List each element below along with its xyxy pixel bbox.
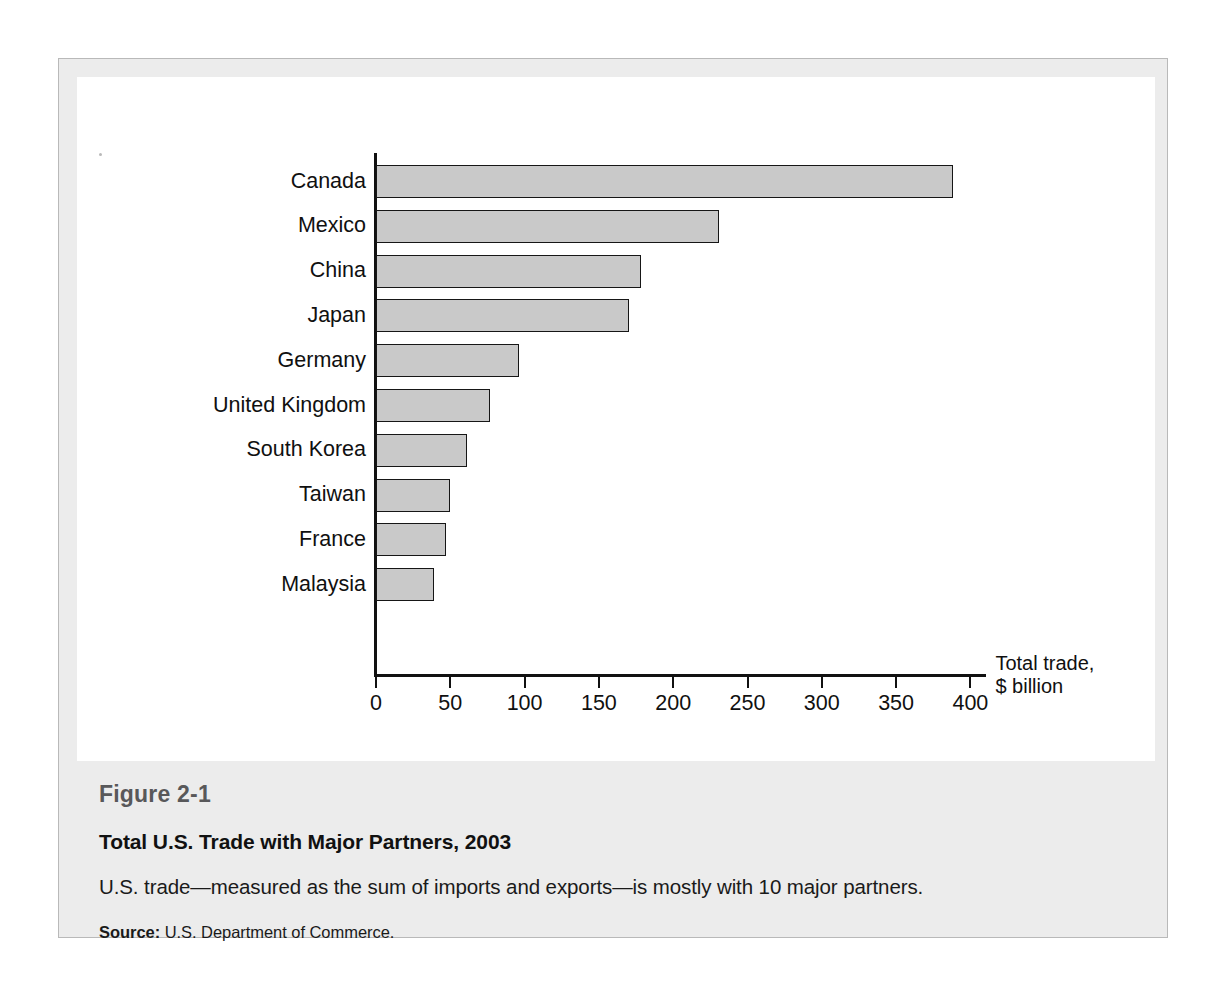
- x-tick-400: [969, 677, 971, 688]
- x-tick-label-150: 150: [559, 693, 639, 715]
- bar-chart-plot: CanadaMexicoChinaJapanGermanyUnited King…: [77, 77, 1155, 761]
- category-label-germany: Germany: [278, 350, 366, 372]
- category-label-canada: Canada: [291, 171, 366, 193]
- category-label-france: France: [299, 529, 366, 551]
- category-label-japan: Japan: [307, 305, 366, 327]
- x-axis-title-line-1: Total trade,: [995, 652, 1094, 675]
- bar-united-kingdom: [376, 389, 490, 422]
- figure-source: Source: U.S. Department of Commerce.: [99, 923, 1119, 942]
- bar-japan: [376, 299, 629, 332]
- x-axis-title-line-2: $ billion: [995, 675, 1094, 698]
- x-tick-label-100: 100: [485, 693, 565, 715]
- bar-germany: [376, 344, 519, 377]
- x-tick-label-250: 250: [708, 693, 788, 715]
- category-label-united-kingdom: United Kingdom: [213, 395, 366, 417]
- source-text: U.S. Department of Commerce.: [165, 923, 395, 941]
- x-tick-label-0: 0: [336, 693, 416, 715]
- bar-taiwan: [376, 479, 450, 512]
- x-tick-label-50: 50: [410, 693, 490, 715]
- figure-frame: CanadaMexicoChinaJapanGermanyUnited King…: [58, 58, 1168, 938]
- bar-malaysia: [376, 568, 434, 601]
- x-tick-100: [524, 677, 526, 688]
- category-label-south-korea: South Korea: [246, 439, 366, 461]
- x-tick-350: [895, 677, 897, 688]
- x-tick-200: [672, 677, 674, 688]
- x-tick-300: [821, 677, 823, 688]
- figure-description: U.S. trade—measured as the sum of import…: [99, 875, 1119, 899]
- x-tick-0: [375, 677, 377, 688]
- source-label: Source:: [99, 923, 160, 941]
- category-label-taiwan: Taiwan: [299, 484, 366, 506]
- x-tick-label-200: 200: [633, 693, 713, 715]
- bar-france: [376, 523, 446, 556]
- x-tick-label-350: 350: [856, 693, 936, 715]
- x-tick-50: [449, 677, 451, 688]
- figure-caption: Figure 2-1 Total U.S. Trade with Major P…: [99, 781, 1119, 942]
- category-label-malaysia: Malaysia: [281, 574, 366, 596]
- bar-canada: [376, 165, 953, 198]
- figure-title: Total U.S. Trade with Major Partners, 20…: [99, 830, 1119, 854]
- figure-number: Figure 2-1: [99, 781, 1119, 808]
- category-label-mexico: Mexico: [298, 215, 366, 237]
- bar-south-korea: [376, 434, 467, 467]
- bar-china: [376, 255, 641, 288]
- chart-panel: CanadaMexicoChinaJapanGermanyUnited King…: [77, 77, 1155, 761]
- x-axis-title: Total trade,$ billion: [995, 652, 1094, 698]
- x-tick-250: [747, 677, 749, 688]
- bar-mexico: [376, 210, 719, 243]
- x-tick-label-300: 300: [782, 693, 862, 715]
- x-tick-150: [598, 677, 600, 688]
- category-label-china: China: [310, 260, 366, 282]
